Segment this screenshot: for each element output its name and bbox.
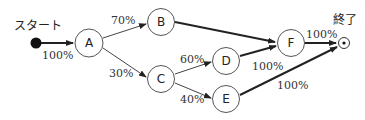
node-d-label: D [221, 54, 230, 68]
edge-d-f [240, 46, 276, 56]
start-node [31, 38, 42, 49]
node-b-label: B [157, 15, 165, 29]
flow-diagram: スタート 終了 A B C D E F 100% 70% 30% 60% 40%… [0, 0, 365, 120]
end-label: 終了 [333, 12, 357, 27]
edge-label-c-d: 60% [180, 53, 204, 66]
edge-b-f [175, 22, 275, 42]
node-d: D [213, 48, 240, 75]
node-f: F [278, 30, 305, 57]
node-a: A [75, 29, 103, 57]
edge-label-d-f: 100% [252, 60, 283, 73]
end-node-dot [342, 41, 345, 44]
node-e: E [213, 86, 240, 113]
edge-label-start-a: 100% [42, 49, 73, 62]
edge-label-a-b: 70% [111, 14, 135, 27]
node-e-label: E [222, 92, 230, 106]
start-label: スタート [14, 19, 62, 33]
edge-label-e-end: 100% [277, 79, 308, 92]
node-f-label: F [288, 36, 295, 50]
edge-label-c-e: 40% [180, 93, 204, 106]
edge-label-f-end: 100% [306, 28, 337, 41]
node-b: B [148, 9, 175, 36]
edge-label-a-c: 30% [109, 67, 133, 80]
node-c-label: C [157, 72, 165, 86]
node-c: C [148, 66, 175, 93]
node-a-label: A [85, 36, 94, 50]
